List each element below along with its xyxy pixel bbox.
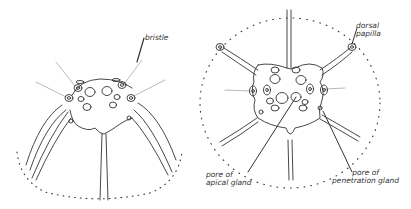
- label-pore-apical-gland: pore of apical gland: [206, 171, 252, 187]
- right-specimen: [200, 10, 380, 188]
- label-dorsal-papilla-line2: papilla: [356, 30, 381, 38]
- label-pore-apical-line2: apical gland: [206, 179, 252, 187]
- label-pore-penetration-line2: penetration gland: [332, 177, 399, 185]
- label-bristle: bristle: [145, 34, 168, 42]
- left-specimen: [17, 38, 182, 200]
- label-dorsal-papilla: dorsal papilla: [356, 22, 381, 38]
- biological-illustration: bristle dorsal papilla pore of apical gl…: [0, 0, 411, 209]
- label-bristle-text: bristle: [145, 33, 168, 42]
- label-pore-penetration-gland: pore of penetration gland: [332, 169, 399, 185]
